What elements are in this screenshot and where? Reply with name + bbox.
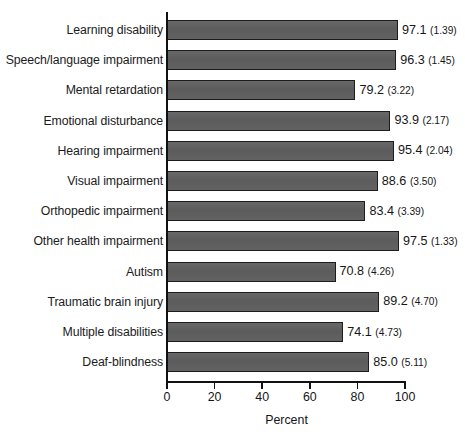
x-axis-tick-label: 80 bbox=[350, 390, 364, 404]
standard-error-label: (4.73) bbox=[375, 327, 402, 338]
category-label: Speech/language impairment bbox=[0, 53, 163, 67]
bar-with-label: 96.3 (1.45) bbox=[167, 50, 455, 70]
bar-with-label: 85.0 (5.11) bbox=[167, 352, 427, 372]
bar bbox=[167, 171, 378, 191]
bar-row: Mental retardation79.2 (3.22) bbox=[0, 75, 465, 105]
standard-error-label: (1.45) bbox=[428, 55, 455, 66]
x-axis-title: Percent bbox=[167, 413, 406, 427]
bar-row: Hearing impairment95.4 (2.04) bbox=[0, 136, 465, 166]
bar-with-label: 97.5 (1.33) bbox=[167, 231, 458, 251]
standard-error-label: (5.11) bbox=[401, 357, 427, 368]
bar-row: Speech/language impairment96.3 (1.45) bbox=[0, 45, 465, 75]
value-label: 88.6 (3.50) bbox=[382, 174, 437, 189]
value-label: 95.4 (2.04) bbox=[398, 143, 453, 158]
bar bbox=[167, 201, 365, 221]
bar-with-label: 89.2 (4.70) bbox=[167, 292, 438, 312]
category-label: Visual impairment bbox=[0, 174, 163, 188]
bar bbox=[167, 111, 390, 131]
standard-error-label: (3.39) bbox=[398, 206, 425, 217]
standard-error-label: (3.50) bbox=[410, 176, 437, 187]
bar-with-label: 97.1 (1.39) bbox=[167, 20, 457, 40]
bar bbox=[167, 141, 394, 161]
standard-error-label: (2.17) bbox=[422, 115, 449, 126]
bars-container: Learning disability97.1 (1.39)Speech/lan… bbox=[0, 0, 465, 437]
value-number: 97.1 bbox=[402, 23, 427, 37]
bar-with-label: 74.1 (4.73) bbox=[167, 322, 402, 342]
x-axis-tick-label: 100 bbox=[395, 390, 416, 404]
bar bbox=[167, 262, 336, 282]
x-axis-tick bbox=[357, 383, 359, 389]
value-number: 93.9 bbox=[394, 113, 419, 127]
x-axis-tick-label: 20 bbox=[208, 390, 222, 404]
x-axis-tick bbox=[214, 383, 216, 389]
category-label: Emotional disturbance bbox=[0, 114, 163, 128]
category-label: Mental retardation bbox=[0, 83, 163, 97]
bar-row: Autism70.8 (4.26) bbox=[0, 257, 465, 287]
value-label: 97.5 (1.33) bbox=[403, 234, 458, 249]
standard-error-label: (3.22) bbox=[388, 85, 415, 96]
value-label: 83.4 (3.39) bbox=[369, 204, 424, 219]
x-axis-tick bbox=[309, 383, 311, 389]
x-axis-line bbox=[166, 381, 406, 383]
value-number: 70.8 bbox=[340, 264, 365, 278]
value-label: 97.1 (1.39) bbox=[402, 23, 457, 38]
value-label: 93.9 (2.17) bbox=[394, 113, 449, 128]
value-number: 83.4 bbox=[369, 204, 394, 218]
standard-error-label: (1.39) bbox=[430, 25, 457, 36]
bar-with-label: 88.6 (3.50) bbox=[167, 171, 437, 191]
bar bbox=[167, 292, 379, 312]
value-number: 95.4 bbox=[398, 143, 423, 157]
bar bbox=[167, 322, 343, 342]
bar-with-label: 70.8 (4.26) bbox=[167, 262, 394, 282]
value-number: 74.1 bbox=[347, 325, 372, 339]
value-number: 97.5 bbox=[403, 234, 428, 248]
standard-error-label: (4.26) bbox=[368, 266, 395, 277]
bar-row: Multiple disabilities74.1 (4.73) bbox=[0, 317, 465, 347]
value-label: 74.1 (4.73) bbox=[347, 325, 402, 340]
category-label: Traumatic brain injury bbox=[0, 295, 163, 309]
bar bbox=[167, 352, 369, 372]
value-number: 79.2 bbox=[359, 83, 384, 97]
x-axis-tick bbox=[166, 383, 168, 389]
standard-error-label: (4.70) bbox=[411, 296, 438, 307]
value-label: 85.0 (5.11) bbox=[373, 355, 427, 370]
bar-row: Orthopedic impairment83.4 (3.39) bbox=[0, 196, 465, 226]
value-number: 89.2 bbox=[383, 294, 408, 308]
bar-with-label: 95.4 (2.04) bbox=[167, 141, 453, 161]
bar bbox=[167, 231, 399, 251]
bar bbox=[167, 50, 396, 70]
category-label: Hearing impairment bbox=[0, 144, 163, 158]
x-axis-tick bbox=[261, 383, 263, 389]
category-label: Learning disability bbox=[0, 23, 163, 37]
bar-with-label: 83.4 (3.39) bbox=[167, 201, 424, 221]
value-label: 70.8 (4.26) bbox=[340, 264, 395, 279]
category-label: Orthopedic impairment bbox=[0, 204, 163, 218]
bar-with-label: 79.2 (3.22) bbox=[167, 80, 414, 100]
x-axis-tick-label: 40 bbox=[255, 390, 269, 404]
value-label: 79.2 (3.22) bbox=[359, 83, 414, 98]
value-label: 89.2 (4.70) bbox=[383, 294, 438, 309]
value-number: 96.3 bbox=[400, 53, 425, 67]
category-label: Multiple disabilities bbox=[0, 325, 163, 339]
bar bbox=[167, 20, 398, 40]
value-number: 88.6 bbox=[382, 174, 407, 188]
bar-with-label: 93.9 (2.17) bbox=[167, 111, 449, 131]
standard-error-label: (1.33) bbox=[431, 236, 458, 247]
bar bbox=[167, 80, 355, 100]
bar-chart: Learning disability97.1 (1.39)Speech/lan… bbox=[0, 0, 465, 437]
value-label: 96.3 (1.45) bbox=[400, 53, 455, 68]
x-axis-tick bbox=[404, 383, 406, 389]
bar-row: Learning disability97.1 (1.39) bbox=[0, 15, 465, 45]
y-axis-line bbox=[166, 12, 168, 382]
value-number: 85.0 bbox=[373, 355, 398, 369]
x-axis-tick-label: 60 bbox=[303, 390, 317, 404]
category-label: Other health impairment bbox=[0, 234, 163, 248]
bar-row: Visual impairment88.6 (3.50) bbox=[0, 166, 465, 196]
category-label: Deaf-blindness bbox=[0, 355, 163, 369]
bar-row: Emotional disturbance93.9 (2.17) bbox=[0, 106, 465, 136]
bar-row: Traumatic brain injury89.2 (4.70) bbox=[0, 287, 465, 317]
bar-row: Other health impairment97.5 (1.33) bbox=[0, 226, 465, 256]
standard-error-label: (2.04) bbox=[426, 145, 453, 156]
x-axis-tick-label: 0 bbox=[164, 390, 171, 404]
category-label: Autism bbox=[0, 265, 163, 279]
